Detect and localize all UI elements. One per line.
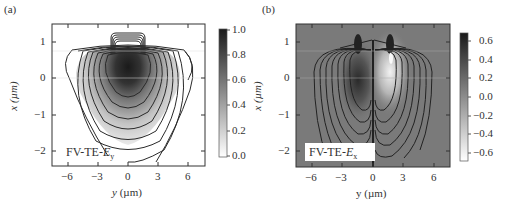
a-xaxis-title: y (µm) <box>112 186 142 198</box>
a-legend-main: FV-TE- <box>66 145 103 159</box>
b-xtick-label: −3 <box>335 171 347 183</box>
b-legend-label: FV-TE-Ex <box>305 143 375 161</box>
a-xtick-label: 3 <box>155 170 161 182</box>
a-xaxis-unit: (µm) <box>117 186 142 198</box>
a-yaxis-title: x (µm) <box>7 81 19 110</box>
b-cbar-label: −0.4 <box>473 127 493 139</box>
b-cbar-label: 0.4 <box>479 53 493 65</box>
b-xtick-label: −6 <box>305 171 317 183</box>
a-ytick-label: 1 <box>40 35 46 47</box>
a-ytick-label: 0 <box>40 71 46 83</box>
a-xtick-label: 6 <box>185 170 191 182</box>
b-ytick-label: 1 <box>284 35 290 47</box>
a-cbar-label: 0.6 <box>232 73 246 85</box>
a-ytick-label: −2 <box>34 144 46 156</box>
a-xtick-label: −3 <box>91 170 103 182</box>
a-legend-label: FV-TE-Ey <box>62 145 118 161</box>
b-cbar-label: 0.6 <box>479 34 493 46</box>
b-cbar-label: −0.6 <box>473 146 493 158</box>
a-cbar-label: 1.0 <box>232 23 246 35</box>
b-legend-sub: x <box>353 152 357 161</box>
b-yaxis-title: x (µm) <box>251 81 263 110</box>
a-cbar-label: 0.0 <box>232 149 246 161</box>
b-xtick-label: 6 <box>431 171 437 183</box>
b-cbar-label: −0.2 <box>473 109 493 121</box>
b-ytick-label: 0 <box>284 71 290 83</box>
b-xaxis-unit: (µm) <box>362 187 387 199</box>
b-ytick-label: −1 <box>278 108 290 120</box>
a-cbar-label: 0.8 <box>232 48 246 60</box>
b-cbar-label: 0.2 <box>479 71 493 83</box>
a-legend-sub: y <box>110 152 114 161</box>
a-cbar-label: 0.4 <box>232 98 246 110</box>
panel-b-tag: (b) <box>262 3 275 15</box>
colorbar-a <box>219 29 227 157</box>
b-xtick-label: 3 <box>400 171 406 183</box>
b-xaxis-title: y (µm) <box>356 187 386 199</box>
b-xtick-label: 0 <box>370 171 376 183</box>
a-cbar-label: 0.2 <box>232 124 246 136</box>
a-ytick-label: −1 <box>34 108 46 120</box>
colorbar-b <box>460 33 468 161</box>
a-xtick-label: 0 <box>125 170 131 182</box>
b-legend-main: FV-TE- <box>309 145 346 159</box>
b-cbar-label: 0.0 <box>479 90 493 102</box>
a-xtick-label: −6 <box>61 170 73 182</box>
b-ytick-label: −2 <box>278 144 290 156</box>
